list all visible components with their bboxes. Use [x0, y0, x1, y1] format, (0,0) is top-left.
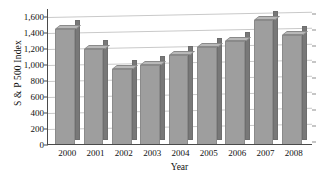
bar-face — [225, 41, 245, 145]
x-tick-label: 2006 — [228, 148, 246, 158]
x-tick-label: 2002 — [115, 148, 133, 158]
y-tick-mark-right — [312, 110, 316, 111]
y-tick-mark-right — [312, 62, 316, 63]
y-tick-mark-right — [312, 142, 316, 143]
y-tick-label: 1,600 — [24, 13, 44, 22]
y-tick-label: 400 — [31, 109, 45, 118]
x-tick-label: 2007 — [257, 148, 275, 158]
y-tick-mark — [44, 145, 48, 146]
y-tick-label: 600 — [31, 93, 45, 102]
y-axis-tick-labels: 02004006008001,0001,2001,4001,600 — [14, 0, 44, 179]
bar-side-face — [245, 32, 250, 140]
y-tick-mark — [44, 97, 48, 98]
bar-face — [282, 35, 302, 145]
x-tick-label: 2001 — [87, 148, 105, 158]
bar-2002 — [112, 64, 132, 145]
y-tick-label: 1,000 — [24, 61, 44, 70]
y-tick-mark — [44, 33, 48, 34]
sp500-bar-chart: S & P 500 Index 02004006008001,0001,2001… — [0, 0, 321, 179]
bar-face — [169, 55, 189, 145]
bar-face — [84, 49, 104, 145]
y-tick-mark-right — [312, 30, 316, 31]
y-tick-mark — [44, 17, 48, 18]
y-tick-mark-right — [312, 126, 316, 127]
x-axis-title: Year — [47, 162, 312, 172]
bar-face — [112, 69, 132, 145]
x-axis-line — [47, 144, 312, 145]
y-tick-mark — [44, 49, 48, 50]
bar-face — [55, 29, 75, 145]
y-tick-mark-right — [312, 46, 316, 47]
x-tick-label: 2004 — [172, 148, 190, 158]
y-tick-label: 1,200 — [24, 45, 44, 54]
x-tick-label: 2000 — [58, 148, 76, 158]
x-tick-label: 2003 — [143, 148, 161, 158]
x-tick-label: 2005 — [200, 148, 218, 158]
bar-side-face — [75, 20, 80, 140]
plot-area — [47, 9, 312, 145]
y-tick-label: 200 — [31, 125, 45, 134]
y-tick-mark — [44, 81, 48, 82]
y-tick-mark-right — [312, 94, 316, 95]
bar-2005 — [197, 42, 217, 145]
y-tick-label: 800 — [31, 77, 45, 86]
x-tick-label: 2008 — [285, 148, 303, 158]
bar-2001 — [84, 44, 104, 145]
bar-side-face — [273, 11, 278, 140]
y-tick-mark-right — [312, 14, 316, 15]
bar-2006 — [225, 36, 245, 145]
bar-2007 — [254, 15, 274, 145]
y-tick-mark-right — [312, 78, 316, 79]
bar-2003 — [140, 60, 160, 145]
bar-2004 — [169, 50, 189, 145]
bar-side-face — [217, 38, 222, 140]
y-tick-mark — [44, 65, 48, 66]
y-tick-mark — [44, 129, 48, 130]
y-tick-mark — [44, 113, 48, 114]
x-axis-tick-labels: 200020012002200320042005200620072008 — [47, 148, 312, 162]
bar-face — [140, 65, 160, 145]
bar-side-face — [302, 26, 307, 140]
bar-face — [197, 47, 217, 145]
bar-face — [254, 20, 274, 145]
bar-side-face — [103, 40, 108, 140]
y-tick-label: 1,400 — [24, 29, 44, 38]
bar-2000 — [55, 24, 75, 145]
bar-side-face — [160, 56, 165, 140]
bar-top-face — [197, 43, 223, 47]
y-axis-line — [47, 9, 48, 145]
bar-side-face — [188, 46, 193, 140]
bar-series — [47, 9, 312, 145]
bar-2008 — [282, 30, 302, 145]
bar-side-face — [132, 60, 137, 140]
